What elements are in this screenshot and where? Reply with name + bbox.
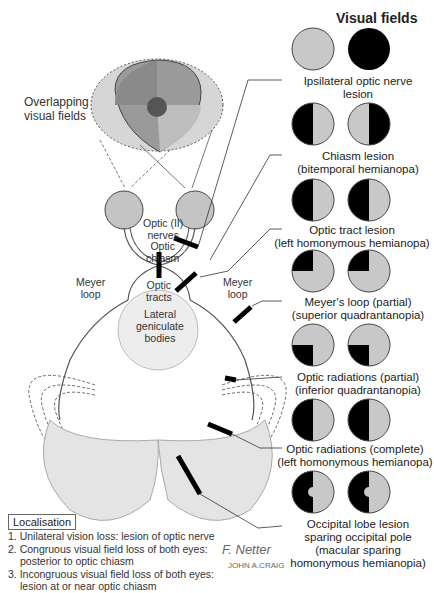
lesion-label-radiations-partial: Optic radiations (partial)(inferior quad…	[283, 371, 433, 397]
visual-fields-title: Visual fields	[336, 10, 417, 26]
overlapping-fields-illustration	[91, 59, 223, 188]
localisation-title: Localisation	[8, 514, 76, 530]
artist-credit: JOHN A.CRAIG	[228, 560, 284, 572]
lgb-label: Lateralgeniculatebodies	[136, 308, 184, 344]
overlap-label: Overlapping visual fields	[24, 95, 89, 123]
meyer-loop-left-label: Meyerloop	[76, 276, 105, 300]
optic-chiasm-label: Opticchiasm	[146, 240, 179, 264]
optic-nerves-label: Optic (II)nerves	[143, 217, 183, 241]
artist-signature: F. Netter	[222, 544, 271, 556]
lesion-label-chiasm: Chiasm lesion(bitemporal hemianopa)	[283, 150, 433, 176]
lesion-label-radiations-complete: Optic radiations (complete)(left homonym…	[276, 443, 434, 469]
lesion-label-optic-nerve: Ipsilateral optic nervelesion	[283, 75, 433, 101]
meyer-loop-right-label: Meyerloop	[223, 276, 252, 300]
lesion-label-occipital: Occipital lobe lesionsparing occipital p…	[283, 518, 433, 570]
lesion-label-meyer: Meyer's loop (partial)(superior quadrant…	[283, 296, 433, 322]
left-eye	[105, 191, 143, 229]
localisation-list: 1. Unilateral vision loss: lesion of opt…	[8, 530, 215, 593]
optic-tracts-label: Optictracts	[146, 279, 172, 303]
lesion-label-optic-tract: Optic tract lesion(left homonymous hemia…	[270, 224, 434, 250]
brain-section	[43, 420, 272, 520]
